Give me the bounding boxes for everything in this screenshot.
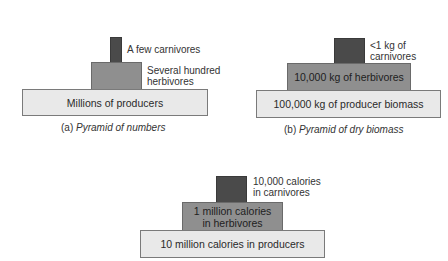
- herbivore-label-line2: in herbivores: [202, 217, 262, 229]
- herbivore-bar: [91, 62, 142, 90]
- carnivore-bar: [216, 176, 247, 203]
- herbivore-bar: 10,000 kg of herbivores: [287, 63, 411, 91]
- carnivore-label-line2: in carnivores: [253, 187, 321, 198]
- herbivore-label-line1: Several hundred: [147, 65, 220, 76]
- caption-b: (b) Pyramid of dry biomass: [284, 124, 404, 135]
- carnivore-label-line1: 10,000 calories: [253, 176, 321, 187]
- producer-bar: 100,000 kg of producer biomass: [256, 90, 441, 118]
- producer-label: 100,000 kg of producer biomass: [273, 98, 423, 110]
- herbivore-bar: 1 million calories in herbivores: [182, 202, 283, 231]
- carnivore-label-line2: carnivores: [370, 51, 416, 62]
- carnivore-bar: [334, 38, 365, 64]
- caption-a: (a) Pyramid of numbers: [61, 122, 166, 133]
- caption-b-prefix: (b): [284, 124, 296, 135]
- caption-b-title: Pyramid of dry biomass: [299, 124, 403, 135]
- herbivore-label: Several hundred herbivores: [147, 65, 220, 87]
- herbivore-label-line1: 1 million calories: [194, 205, 272, 217]
- producer-label: 10 million calories in producers: [160, 238, 304, 250]
- carnivore-label: A few carnivores: [127, 44, 200, 55]
- carnivore-bar: [110, 37, 122, 63]
- producer-bar: 10 million calories in producers: [140, 230, 325, 258]
- herbivore-label-line2: herbivores: [147, 76, 220, 87]
- producer-bar: Millions of producers: [22, 89, 208, 116]
- caption-a-title: Pyramid of numbers: [76, 122, 165, 133]
- herbivore-label: 10,000 kg of herbivores: [294, 71, 404, 83]
- carnivore-label: <1 kg of carnivores: [370, 40, 416, 62]
- carnivore-label-text: A few carnivores: [127, 44, 200, 55]
- producer-label: Millions of producers: [67, 97, 163, 109]
- caption-a-prefix: (a): [61, 122, 73, 133]
- carnivore-label: 10,000 calories in carnivores: [253, 176, 321, 198]
- carnivore-label-line1: <1 kg of: [370, 40, 416, 51]
